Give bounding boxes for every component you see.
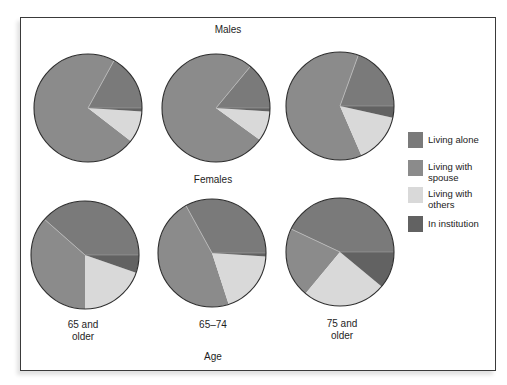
swatch-living-with-spouse (408, 160, 423, 176)
swatch-in-institution (408, 216, 423, 232)
swatch-living-alone (408, 132, 423, 148)
legend-label: Living with spouse (428, 161, 472, 183)
axis-title-age: Age (153, 351, 273, 362)
age-label-65-and-older: 65 and older (43, 319, 123, 343)
swatch-living-with-others (408, 187, 423, 203)
legend-label: In institution (428, 218, 479, 229)
legend-label: Living alone (428, 134, 479, 145)
age-label-65-74: 65–74 (173, 319, 253, 331)
legend-label: Living with others (428, 188, 472, 210)
age-label-75-and-older: 75 and older (302, 318, 382, 342)
